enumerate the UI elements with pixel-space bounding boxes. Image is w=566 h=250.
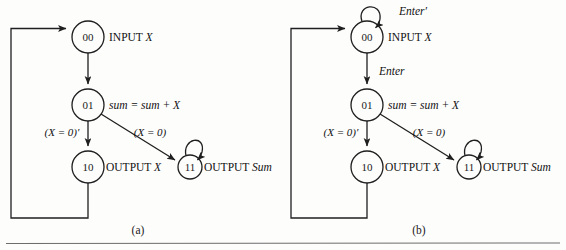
state-action-10: OUTPUT X xyxy=(385,161,441,173)
state-action-00: INPUT X xyxy=(388,31,433,43)
action-italic-10: X xyxy=(432,161,441,173)
state-node-01[interactable]: 01 xyxy=(72,89,104,121)
action-text-00: INPUT xyxy=(109,31,146,43)
action-text-11: OUTPUT xyxy=(204,161,252,173)
state-label-10: 10 xyxy=(83,161,95,173)
state-node-11[interactable]: 11 xyxy=(457,155,481,179)
action-italic-11: Sum xyxy=(252,161,272,173)
action-italic-10: X xyxy=(153,161,162,173)
state-node-10[interactable]: 10 xyxy=(351,151,383,183)
figure-bottom-rule xyxy=(6,243,560,244)
state-node-00[interactable]: 00 xyxy=(351,21,383,53)
panel-b: 00 INPUT X 01 sum = sum + X 10 OUTPUT X … xyxy=(291,5,551,237)
panel-a: 00 INPUT X 01 sum = sum + X 10 OUTPUT X … xyxy=(11,21,272,237)
state-label-11: 11 xyxy=(464,161,475,173)
state-action-10: OUTPUT X xyxy=(106,161,162,173)
action-text-00: INPUT xyxy=(388,31,425,43)
state-action-11: OUTPUT Sum xyxy=(204,161,272,173)
state-node-11[interactable]: 11 xyxy=(178,155,202,179)
state-action-01: sum = sum + X xyxy=(109,99,181,111)
edge-label-x-equals-0: (X = 0) xyxy=(134,126,167,139)
state-action-00: INPUT X xyxy=(109,31,154,43)
action-text-11: OUTPUT xyxy=(483,161,531,173)
state-node-10[interactable]: 10 xyxy=(72,151,104,183)
edge-11-self-loop xyxy=(465,140,482,160)
fsm-diagram-canvas: 00 INPUT X 01 sum = sum + X 10 OUTPUT X … xyxy=(0,0,566,250)
action-italic-00: X xyxy=(145,31,154,43)
state-node-01[interactable]: 01 xyxy=(351,89,383,121)
edge-label-not-x-equals-0: (X = 0)′ xyxy=(324,126,359,139)
state-label-00: 00 xyxy=(83,31,95,43)
state-label-01: 01 xyxy=(83,99,94,111)
transition-label-enter-prime: Enter′ xyxy=(398,5,428,17)
state-label-11: 11 xyxy=(185,161,196,173)
state-node-00[interactable]: 00 xyxy=(72,21,104,53)
action-italic-01: sum = sum + X xyxy=(388,99,460,111)
action-italic-00: X xyxy=(424,31,433,43)
fsm-figure: 00 INPUT X 01 sum = sum + X 10 OUTPUT X … xyxy=(0,0,566,250)
state-label-01: 01 xyxy=(362,99,373,111)
action-italic-01: sum = sum + X xyxy=(109,99,181,111)
panel-caption-a: (a) xyxy=(132,224,145,237)
state-action-01: sum = sum + X xyxy=(388,99,460,111)
action-text-10: OUTPUT xyxy=(106,161,154,173)
panel-caption-b: (b) xyxy=(412,224,426,237)
action-italic-11: Sum xyxy=(531,161,551,173)
edge-label-x-equals-0: (X = 0) xyxy=(413,126,446,139)
edge-label-not-x-equals-0: (X = 0)′ xyxy=(45,126,80,139)
state-label-10: 10 xyxy=(362,161,374,173)
edge-feedback-10-to-00 xyxy=(11,29,88,219)
edge-feedback-10-to-00 xyxy=(291,29,367,219)
action-text-10: OUTPUT xyxy=(385,161,433,173)
state-action-11: OUTPUT Sum xyxy=(483,161,551,173)
transition-label-enter: Enter xyxy=(378,65,405,77)
state-label-00: 00 xyxy=(362,31,374,43)
edge-11-self-loop xyxy=(186,140,203,160)
